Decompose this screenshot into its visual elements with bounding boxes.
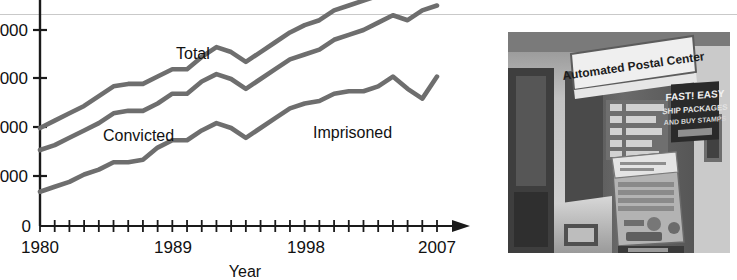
photo-counter-slot-inner xyxy=(568,228,594,242)
photo-slot-left xyxy=(624,220,644,226)
x-tick-label-2007: 2007 xyxy=(418,238,456,257)
chart-series-group xyxy=(40,0,437,192)
automated-postal-center-kiosk-photo: Automated Postal Center FAST! EASY SHIP … xyxy=(508,32,730,253)
x-axis-title: Year xyxy=(229,263,262,280)
x-tick-label-1980: 1980 xyxy=(21,238,59,257)
y-tick-label: 000 xyxy=(0,167,28,186)
chart-canvas: 000 000 000 000 0 1980 1989 1998 2007 Ye… xyxy=(0,0,500,280)
photo-left-lower-panel xyxy=(514,192,548,247)
photo-button-round xyxy=(668,222,680,234)
series-line-total xyxy=(40,0,437,128)
y-tick-label: 000 xyxy=(0,69,28,88)
x-axis-arrowhead xyxy=(452,220,470,232)
line-chart-figure: 000 000 000 000 0 1980 1989 1998 2007 Ye… xyxy=(0,0,500,280)
y-axis-tick-labels: 000 000 000 000 0 xyxy=(0,21,31,236)
x-tick-label-1998: 1998 xyxy=(287,238,325,257)
photo-keyboard-tray xyxy=(626,232,662,241)
x-axis-tick-labels: 1980 1989 1998 2007 xyxy=(21,238,456,257)
x-tick-label-1989: 1989 xyxy=(154,238,192,257)
photo-graphic: Automated Postal Center FAST! EASY SHIP … xyxy=(508,32,730,253)
series-label-total: Total xyxy=(176,45,210,62)
y-tick-label: 000 xyxy=(0,118,28,137)
photo-left-panel xyxy=(516,76,546,186)
photo-output-slot xyxy=(628,248,668,252)
series-label-convicted: Convicted xyxy=(103,127,174,144)
y-tick-label-zero: 0 xyxy=(22,217,31,236)
y-tick-label: 000 xyxy=(0,21,28,40)
series-label-imprisoned: Imprisoned xyxy=(313,124,392,141)
photo-card-reader-knob xyxy=(647,217,661,231)
